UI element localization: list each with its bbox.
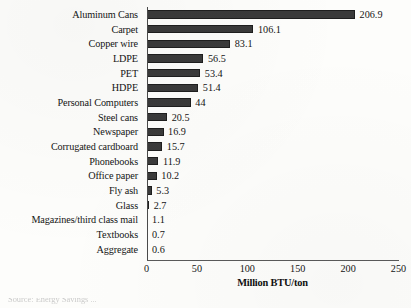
- chart-row: LDPE56.5: [0, 51, 411, 66]
- bar-value-label: 44: [195, 97, 205, 108]
- bar-zone: 11.9: [147, 154, 181, 169]
- bar: [147, 69, 201, 77]
- category-label: Textbooks: [0, 229, 142, 240]
- category-label: Aggregate: [0, 244, 142, 255]
- bar: [147, 10, 356, 18]
- bar: [147, 40, 231, 48]
- bar-zone: 5.3: [147, 183, 170, 198]
- bar-zone: 0.6: [147, 242, 165, 257]
- x-axis-line: [147, 260, 399, 261]
- chart-row: Carpet106.1: [0, 22, 411, 37]
- bar: [147, 142, 163, 150]
- bar-value-label: 15.7: [167, 141, 185, 152]
- cutoff-caption: Source: Energy Savings ...: [8, 298, 338, 306]
- chart-row: Glass2.7: [0, 198, 411, 213]
- category-label: Phonebooks: [0, 156, 142, 167]
- bar: [147, 157, 159, 165]
- bar-value-label: 53.4: [205, 68, 223, 79]
- bar-value-label: 56.5: [208, 53, 226, 64]
- chart-row: Steel cans20.5: [0, 110, 411, 125]
- bar-value-label: 2.7: [154, 200, 167, 211]
- chart-row: HDPE51.4: [0, 80, 411, 95]
- bar: [147, 25, 254, 33]
- bar-zone: 20.5: [147, 110, 190, 125]
- x-axis-ticks: 050100150200250: [0, 263, 411, 277]
- category-label: Newspaper: [0, 126, 142, 137]
- category-label: Magazines/third class mail: [0, 214, 142, 225]
- x-tick-label: 250: [391, 263, 406, 275]
- bar-chart: Aluminum Cans206.9Carpet106.1Copper wire…: [0, 0, 411, 308]
- bar: [147, 54, 204, 62]
- bar-value-label: 83.1: [235, 38, 253, 49]
- chart-row: Phonebooks11.9: [0, 154, 411, 169]
- bar-zone: 53.4: [147, 66, 223, 81]
- category-label: Personal Computers: [0, 97, 142, 108]
- bar: [147, 113, 168, 121]
- category-label: Glass: [0, 200, 142, 211]
- bar: [147, 98, 191, 106]
- bar-value-label: 10.2: [161, 170, 179, 181]
- x-tick-label: 150: [290, 263, 305, 275]
- bar-value-label: 1.1: [152, 214, 165, 225]
- category-label: Aluminum Cans: [0, 9, 142, 20]
- x-tick-label: 200: [340, 263, 355, 275]
- bar-zone: 2.7: [147, 198, 167, 213]
- bar-value-label: 11.9: [163, 156, 180, 167]
- bar: [147, 172, 157, 180]
- chart-row: PET53.4: [0, 66, 411, 81]
- category-label: Carpet: [0, 24, 142, 35]
- bar-zone: 16.9: [147, 125, 186, 140]
- bar-value-label: 5.3: [156, 185, 169, 196]
- bar-zone: 1.1: [147, 213, 165, 228]
- chart-row: Copper wire83.1: [0, 36, 411, 51]
- chart-row: Textbooks0.7: [0, 227, 411, 242]
- y-axis-line: [147, 7, 148, 260]
- category-label: Corrugated cardboard: [0, 141, 142, 152]
- bar-zone: 56.5: [147, 51, 226, 66]
- bar-zone: 51.4: [147, 80, 221, 95]
- category-label: PET: [0, 68, 142, 79]
- bar-value-label: 0.6: [152, 244, 165, 255]
- x-tick-label: 50: [192, 263, 202, 275]
- chart-row: Fly ash5.3: [0, 183, 411, 198]
- bar-value-label: 51.4: [203, 82, 221, 93]
- bar: [147, 84, 199, 92]
- chart-row: Aggregate0.6: [0, 242, 411, 257]
- bar-value-label: 16.9: [168, 126, 186, 137]
- category-label: Office paper: [0, 170, 142, 181]
- category-label: Copper wire: [0, 38, 142, 49]
- category-label: LDPE: [0, 53, 142, 64]
- chart-row: Magazines/third class mail1.1: [0, 213, 411, 228]
- bar-zone: 0.7: [147, 227, 165, 242]
- bar-value-label: 206.9: [360, 9, 383, 20]
- bar-zone: 15.7: [147, 139, 185, 154]
- x-tick-label: 100: [240, 263, 255, 275]
- x-axis-title: Million BTU/ton: [147, 277, 399, 288]
- chart-row: Aluminum Cans206.9: [0, 7, 411, 22]
- x-tick-label: 0: [144, 263, 149, 275]
- cutoff-caption-text: Source: Energy Savings ...: [8, 298, 338, 304]
- bar-value-label: 0.7: [152, 229, 165, 240]
- category-label: Steel cans: [0, 112, 142, 123]
- category-label: HDPE: [0, 82, 142, 93]
- bar-zone: 206.9: [147, 7, 383, 22]
- bar-value-label: 20.5: [172, 112, 190, 123]
- bar-zone: 44: [147, 95, 206, 110]
- chart-rows: Aluminum Cans206.9Carpet106.1Copper wire…: [0, 7, 411, 257]
- bar-zone: 106.1: [147, 22, 281, 37]
- bar-zone: 10.2: [147, 169, 180, 184]
- bar: [147, 128, 164, 136]
- chart-row: Personal Computers44: [0, 95, 411, 110]
- chart-row: Newspaper16.9: [0, 125, 411, 140]
- chart-row: Corrugated cardboard15.7: [0, 139, 411, 154]
- bar-zone: 83.1: [147, 36, 253, 51]
- chart-row: Office paper10.2: [0, 169, 411, 184]
- category-label: Fly ash: [0, 185, 142, 196]
- bar-value-label: 106.1: [258, 24, 281, 35]
